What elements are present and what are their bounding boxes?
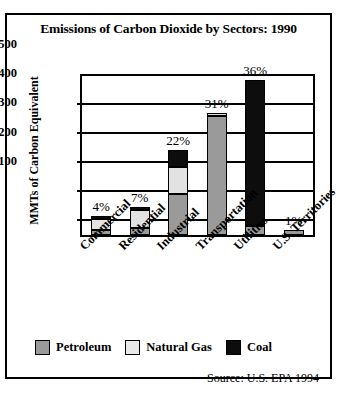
legend-item-petroleum: Petroleum [35, 340, 111, 355]
legend-item-natural-gas: Natural Gas [125, 340, 212, 355]
y-tick-400: 400 [0, 66, 17, 81]
segment-natural-gas [168, 167, 188, 194]
chart-legend: Petroleum Natural Gas Coal [35, 340, 286, 355]
y-tick-300: 300 [0, 95, 17, 110]
y-tick-200: 200 [0, 125, 17, 140]
data-label-transportation: 31% [192, 96, 242, 112]
chart-figure: Emissions of Carbon Dioxide by Sectors: … [5, 13, 332, 379]
y-axis-label: MMTs of Carbon Equivalent [27, 61, 42, 241]
data-label-industrial: 22% [153, 133, 203, 149]
legend-label-coal: Coal [247, 340, 272, 355]
legend-item-coal: Coal [226, 340, 272, 355]
legend-swatch-petroleum-icon [35, 340, 50, 355]
source-note: Source: U.S. EPA 1994 [207, 371, 319, 386]
bar-utilities[interactable] [245, 80, 265, 235]
legend-swatch-coal-icon [226, 340, 241, 355]
y-tick-500: 500 [0, 37, 17, 52]
data-label-utilities: 36% [230, 63, 280, 79]
legend-label-petroleum: Petroleum [56, 340, 111, 355]
segment-natural-gas [207, 113, 227, 115]
segment-coal [168, 150, 188, 168]
y-tick-100: 100 [0, 154, 17, 169]
legend-swatch-natural-gas-icon [125, 340, 140, 355]
chart-title: Emissions of Carbon Dioxide by Sectors: … [7, 21, 330, 37]
legend-label-natural-gas: Natural Gas [146, 340, 212, 355]
